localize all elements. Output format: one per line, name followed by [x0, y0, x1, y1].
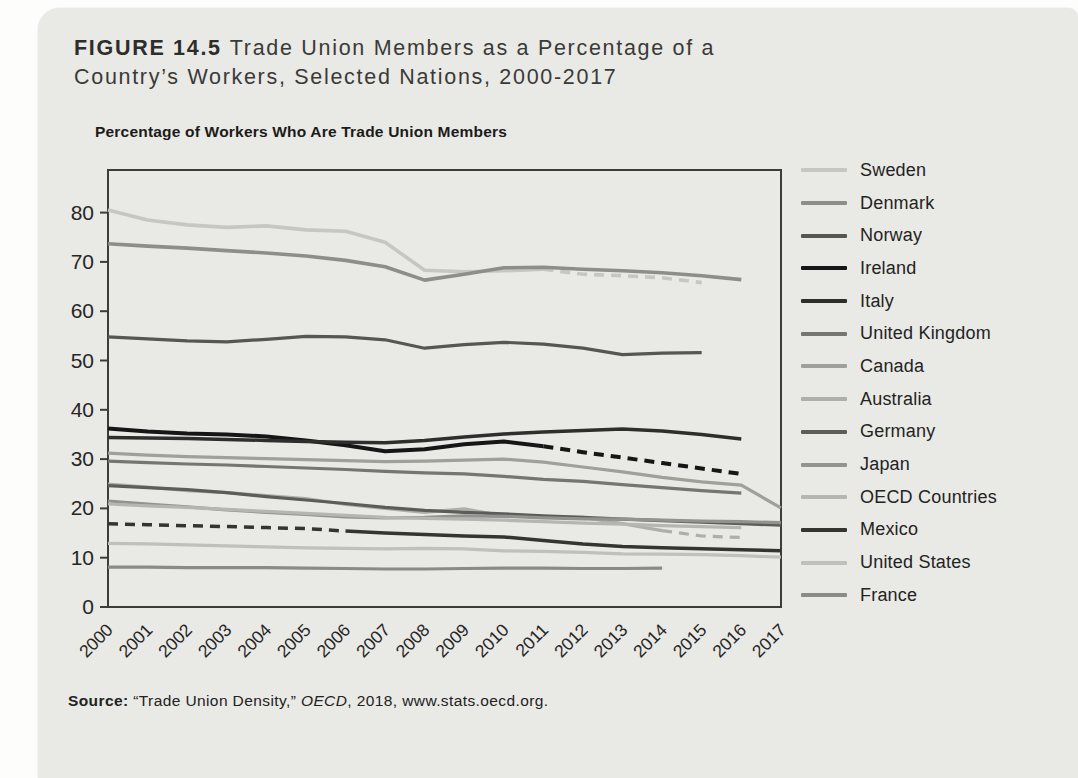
x-tick-label: 2000	[75, 620, 117, 662]
x-tick-label: 2011	[511, 620, 552, 661]
legend-swatch-norway	[801, 234, 847, 238]
legend-label: Japan	[860, 454, 910, 475]
legend-swatch-denmark	[801, 201, 847, 205]
legend-item-mexico: Mexico	[801, 514, 997, 547]
legend-label: OECD Countries	[860, 487, 997, 508]
legend-label: Ireland	[860, 258, 916, 279]
line-chart: 0102030405060708020002001200220032004200…	[60, 140, 800, 670]
legend-swatch-france	[801, 593, 847, 597]
y-tick-label: 0	[82, 595, 94, 618]
legend-label: United States	[860, 552, 971, 573]
x-tick-label: 2017	[748, 620, 790, 662]
legend-swatch-australia	[801, 397, 847, 401]
x-tick-label: 2012	[550, 620, 592, 662]
legend-item-germany: Germany	[801, 416, 997, 449]
series-line-norway	[108, 336, 702, 354]
figure-title-text-1: Trade Union Members as a Percentage of a	[230, 36, 715, 60]
x-tick-label: 2006	[313, 620, 355, 662]
legend-item-oecd-countries: OECD Countries	[801, 481, 997, 514]
x-tick-label: 2009	[431, 620, 473, 662]
figure-title: FIGURE 14.5Trade Union Members as a Perc…	[74, 34, 814, 92]
legend-label: United Kingdom	[860, 323, 991, 344]
x-tick-label: 2014	[629, 620, 671, 662]
legend-swatch-canada	[801, 364, 847, 368]
legend-swatch-italy	[801, 299, 847, 303]
figure-label: FIGURE 14.5	[74, 36, 222, 60]
legend-label: Norway	[860, 225, 922, 246]
legend-swatch-oecd-countries	[801, 495, 847, 499]
y-tick-label: 20	[71, 496, 94, 519]
legend-label: Germany	[860, 421, 935, 442]
source-prefix: Source:	[68, 692, 129, 709]
x-tick-label: 2003	[194, 620, 236, 662]
y-tick-label: 80	[71, 201, 94, 224]
legend-item-united-states: United States	[801, 546, 997, 579]
x-tick-label: 2015	[669, 620, 711, 662]
source-tail: , 2018, www.stats.oecd.org.	[347, 692, 548, 709]
x-tick-label: 2001	[115, 620, 157, 662]
legend-label: Canada	[860, 356, 924, 377]
legend-item-ireland: Ireland	[801, 252, 997, 285]
legend-item-denmark: Denmark	[801, 187, 997, 220]
legend-item-canada: Canada	[801, 350, 997, 383]
series-line-denmark	[108, 244, 741, 280]
legend-swatch-united-states	[801, 561, 847, 565]
figure-title-line2: Country’s Workers, Selected Nations, 200…	[74, 63, 814, 92]
figure-title-line1: FIGURE 14.5Trade Union Members as a Perc…	[74, 34, 814, 63]
y-tick-label: 70	[71, 250, 94, 273]
series-line-canada	[108, 453, 781, 508]
source-publisher: OECD	[301, 692, 347, 709]
x-tick-label: 2002	[154, 620, 196, 662]
legend-swatch-ireland	[801, 266, 847, 270]
y-tick-label: 50	[71, 349, 94, 372]
series-line-united-kingdom	[108, 461, 741, 493]
plot-border	[108, 170, 781, 607]
legend-label: Italy	[860, 291, 894, 312]
x-tick-label: 2010	[471, 620, 513, 662]
legend-item-norway: Norway	[801, 219, 997, 252]
legend-swatch-sweden	[801, 168, 847, 172]
x-tick-label: 2013	[590, 620, 632, 662]
y-tick-label: 40	[71, 398, 94, 421]
legend-label: France	[860, 585, 917, 606]
legend-label: Denmark	[860, 193, 934, 214]
legend-swatch-united-kingdom	[801, 332, 847, 336]
y-tick-label: 60	[71, 299, 94, 322]
x-tick-label: 2007	[352, 620, 394, 662]
series-line-mexico	[108, 524, 346, 531]
legend-swatch-germany	[801, 430, 847, 434]
legend-label: Sweden	[860, 160, 926, 181]
source-line: Source: “Trade Union Density,” OECD, 201…	[68, 692, 549, 710]
x-tick-label: 2008	[392, 620, 434, 662]
legend-item-france: France	[801, 579, 997, 612]
legend-item-australia: Australia	[801, 383, 997, 416]
legend-item-sweden: Sweden	[801, 154, 997, 187]
y-tick-label: 10	[71, 546, 94, 569]
legend-item-japan: Japan	[801, 448, 997, 481]
series-line-australia	[662, 531, 741, 538]
legend-item-united-kingdom: United Kingdom	[801, 317, 997, 350]
source-work: “Trade Union Density,”	[129, 692, 301, 709]
legend-label: Australia	[860, 389, 932, 410]
legend-swatch-japan	[801, 463, 847, 467]
series-line-united-states	[108, 543, 781, 557]
legend-label: Mexico	[860, 519, 918, 540]
chart-legend: SwedenDenmarkNorwayIrelandItalyUnited Ki…	[801, 154, 997, 612]
series-line-ireland	[543, 446, 741, 474]
legend-swatch-mexico	[801, 528, 847, 532]
chart-heading: Percentage of Workers Who Are Trade Unio…	[95, 123, 507, 141]
x-tick-label: 2005	[273, 620, 315, 662]
x-tick-label: 2004	[233, 620, 275, 662]
legend-item-italy: Italy	[801, 285, 997, 318]
x-tick-label: 2016	[708, 620, 750, 662]
series-line-france	[108, 567, 662, 569]
series-line-sweden	[108, 210, 543, 272]
y-tick-label: 30	[71, 447, 94, 470]
